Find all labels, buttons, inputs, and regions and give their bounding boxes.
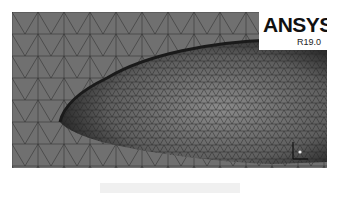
ansys-logo: ANSYS R19.0 bbox=[259, 12, 327, 50]
logo-title: ANSYS bbox=[263, 13, 327, 37]
logo-version: R19.0 bbox=[297, 37, 321, 47]
mesh-figure: ANSYS R19.0 bbox=[12, 12, 327, 168]
figure-caption-placeholder bbox=[100, 183, 240, 193]
